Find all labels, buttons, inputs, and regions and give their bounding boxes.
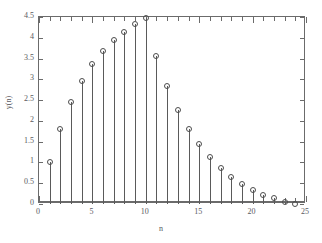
x-tick-top [242, 17, 243, 21]
x-tick-label: 5 [78, 207, 104, 217]
data-point-marker [260, 192, 266, 198]
data-point-marker [250, 187, 256, 193]
y-tick-label: 1 [10, 157, 34, 165]
y-tick-label: 3 [10, 74, 34, 82]
stem-line [146, 18, 147, 204]
y-tick [39, 59, 43, 60]
data-point-marker [100, 48, 106, 54]
stem-line [71, 102, 72, 204]
y-tick-label: 0 [10, 199, 34, 207]
stem-line [114, 40, 115, 204]
data-point-marker [89, 61, 95, 67]
data-point-marker [121, 29, 127, 35]
x-tick-label: 25 [292, 207, 318, 217]
x-tick-top [189, 17, 190, 21]
x-tick-top [253, 17, 254, 23]
data-point-marker [68, 99, 74, 105]
data-point-marker [164, 83, 170, 89]
x-tick-top [135, 17, 136, 21]
y-tick [39, 17, 43, 18]
y-tick-label: 2.5 [10, 95, 34, 103]
data-point-marker [239, 181, 245, 187]
x-axis-label: n [0, 224, 322, 233]
x-tick-top [82, 17, 83, 21]
y-tick-right [300, 142, 304, 143]
plot-area [38, 16, 305, 203]
data-point-marker [175, 107, 181, 113]
stem-line [231, 177, 232, 204]
y-tick-label: 4 [10, 33, 34, 41]
stem-line [167, 86, 168, 204]
data-point-marker [153, 53, 159, 59]
x-tick-top [60, 17, 61, 21]
data-point-marker [186, 126, 192, 132]
data-point-marker [218, 165, 224, 171]
stem-line [156, 56, 157, 204]
y-tick-right [300, 100, 304, 101]
x-tick-top [71, 17, 72, 21]
y-tick-right [300, 121, 304, 122]
x-tick-top [221, 17, 222, 21]
x-tick-top [274, 17, 275, 21]
stem-line [124, 32, 125, 204]
y-tick-right [300, 204, 304, 205]
x-tick-label: 20 [239, 207, 265, 217]
x-tick-label: 15 [185, 207, 211, 217]
x-tick [39, 196, 40, 202]
stem-line [221, 168, 222, 204]
y-tick-right [300, 183, 304, 184]
y-tick-label: 0.5 [10, 178, 34, 186]
stem-line [178, 110, 179, 204]
y-tick-right [300, 17, 304, 18]
data-point-marker [228, 174, 234, 180]
y-tick-right [300, 79, 304, 80]
stem-line [210, 157, 211, 204]
x-tick-label: 10 [132, 207, 158, 217]
x-tick-top [92, 17, 93, 23]
x-tick-top [306, 17, 307, 23]
stem-line [135, 24, 136, 204]
data-point-marker [79, 78, 85, 84]
y-tick [39, 79, 43, 80]
y-tick-label: 3.5 [10, 54, 34, 62]
data-point-marker [47, 159, 53, 165]
data-point-marker [207, 154, 213, 160]
x-tick-top [199, 17, 200, 23]
stem-line [50, 162, 51, 204]
stem-plot-figure: y(n) n 051015202500.511.522.533.544.5 [0, 0, 322, 243]
y-tick [39, 162, 43, 163]
y-tick [39, 142, 43, 143]
x-tick-top [114, 17, 115, 21]
data-point-marker [143, 15, 149, 21]
stem-line [199, 144, 200, 204]
y-tick-right [300, 162, 304, 163]
data-point-marker [57, 126, 63, 132]
x-tick-top [156, 17, 157, 21]
data-point-marker [282, 199, 288, 205]
y-tick [39, 100, 43, 101]
x-tick-top [295, 17, 296, 21]
x-tick-top [285, 17, 286, 21]
y-tick [39, 183, 43, 184]
y-tick-label: 1.5 [10, 137, 34, 145]
x-tick-top [178, 17, 179, 21]
stem-line [60, 129, 61, 204]
stem-line [242, 184, 243, 204]
x-tick-label: 0 [25, 207, 51, 217]
x-tick-top [124, 17, 125, 21]
y-tick-right [300, 59, 304, 60]
data-point-marker [132, 21, 138, 27]
x-tick-top [263, 17, 264, 21]
x-tick [306, 196, 307, 202]
x-tick-top [167, 17, 168, 21]
y-tick-label: 2 [10, 116, 34, 124]
y-tick-right [300, 38, 304, 39]
data-point-marker [111, 37, 117, 43]
x-tick-top [210, 17, 211, 21]
stem-line [82, 81, 83, 204]
stem-line [92, 64, 93, 204]
data-point-marker [196, 141, 202, 147]
x-tick-top [103, 17, 104, 21]
x-tick-top [231, 17, 232, 21]
y-tick [39, 38, 43, 39]
